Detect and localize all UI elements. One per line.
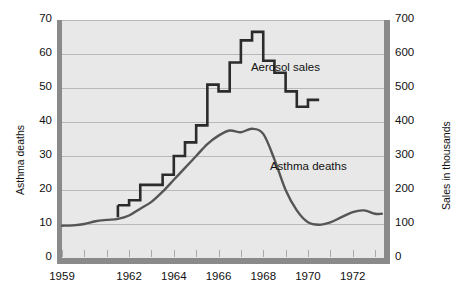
left-tick-label: 50 [18,80,52,92]
right-axis-title: Sales in thousands [440,121,452,210]
gridlines [62,21,384,225]
chart-figure: 010203040506070 0100200300400500600700 1… [0,0,459,303]
right-tick-label: 500 [395,80,435,92]
left-tick-label: 70 [18,12,52,24]
left-axis-title: Asthma deaths [14,125,26,195]
right-tick-label: 100 [395,216,435,228]
right-tick-label: 200 [395,182,435,194]
x-tick-label: 1970 [284,270,332,282]
series-label: Asthma deaths [270,160,347,172]
x-tick-label: 1959 [38,270,86,282]
right-tick-label: 300 [395,148,435,160]
x-tick-label: 1968 [239,270,287,282]
right-tick-label: 600 [395,46,435,58]
left-tick-label: 0 [18,250,52,262]
series-asthma-deaths [62,129,382,226]
x-axis-ticks [63,250,376,257]
x-tick-label: 1966 [195,270,243,282]
x-tick-label: 1964 [150,270,198,282]
series-label: Aerosol sales [251,61,320,73]
right-tick-label: 0 [395,250,435,262]
left-tick-label: 10 [18,216,52,228]
right-tick-label: 400 [395,114,435,126]
chart-canvas [0,0,459,303]
x-tick-label: 1962 [105,270,153,282]
right-tick-label: 700 [395,12,435,24]
series-aerosol-sales [118,32,319,217]
left-tick-label: 60 [18,46,52,58]
x-tick-label: 1972 [329,270,377,282]
